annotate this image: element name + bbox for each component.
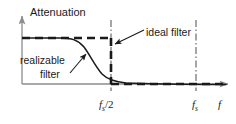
tick-label-sampling: fs [192,99,198,110]
tick-label-sampling-subscript: s [195,104,198,113]
realizable-filter-annotation-line2: filter [40,69,60,80]
ideal-filter-leader-arrow [115,30,144,44]
tick-label-half-sampling-subscript: s [102,104,105,113]
y-axis-title: Attenuation [30,7,86,18]
tick-label-half-sampling-suffix: /2 [105,98,114,110]
realizable-filter-annotation-line1: realizable [20,55,65,66]
attenuation-filter-figure: Attenuation ideal filter realizable filt… [0,0,236,124]
tick-label-half-sampling: fs/2 [99,99,114,110]
realizable-filter-leader-arrow [70,54,86,73]
ideal-filter-annotation: ideal filter [146,27,191,38]
x-axis-label: f [218,99,221,110]
